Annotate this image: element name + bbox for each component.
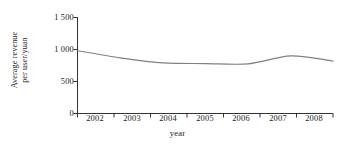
x-tick-label-2008: 2008 <box>305 114 323 124</box>
x-tick-label-2003: 2003 <box>123 114 141 124</box>
x-tick-label-2004: 2004 <box>159 114 177 124</box>
chart-figure: Average revenue per user/yuan 1 500 1 00… <box>0 0 345 151</box>
x-axis-tick-labels: 2002 2003 2004 2005 2006 2007 2008 <box>0 114 345 128</box>
x-tick-label-2005: 2005 <box>196 114 214 124</box>
x-axis-title: year <box>0 128 345 138</box>
x-axis-title-text: year <box>170 128 186 138</box>
x-tick-label-2007: 2007 <box>269 114 287 124</box>
y-axis-ticks <box>74 18 78 114</box>
data-series-line <box>78 51 333 65</box>
x-tick-label-2006: 2006 <box>232 114 250 124</box>
x-tick-label-2002: 2002 <box>86 114 104 124</box>
